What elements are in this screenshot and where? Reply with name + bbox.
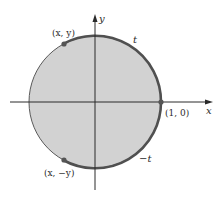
point-x-neg-y-label: (x, −y) <box>44 168 74 178</box>
y-axis-label: y <box>98 13 105 24</box>
y-axis-arrow-icon <box>93 14 98 22</box>
x-axis-label: x <box>206 105 212 116</box>
point-1-0-label: (1, 0) <box>165 108 189 118</box>
unit-circle-diagram: y x (x, y) (1, 0) (x, −y) t −t <box>0 0 218 198</box>
arc-t-label: t <box>133 34 138 45</box>
point-x-neg-y-icon <box>61 157 66 162</box>
point-1-0-icon <box>158 99 163 104</box>
x-axis-arrow-icon <box>205 100 213 105</box>
arc-neg-t-label: −t <box>139 153 152 164</box>
point-xy-label: (x, y) <box>52 28 75 38</box>
point-xy-icon <box>61 41 66 46</box>
